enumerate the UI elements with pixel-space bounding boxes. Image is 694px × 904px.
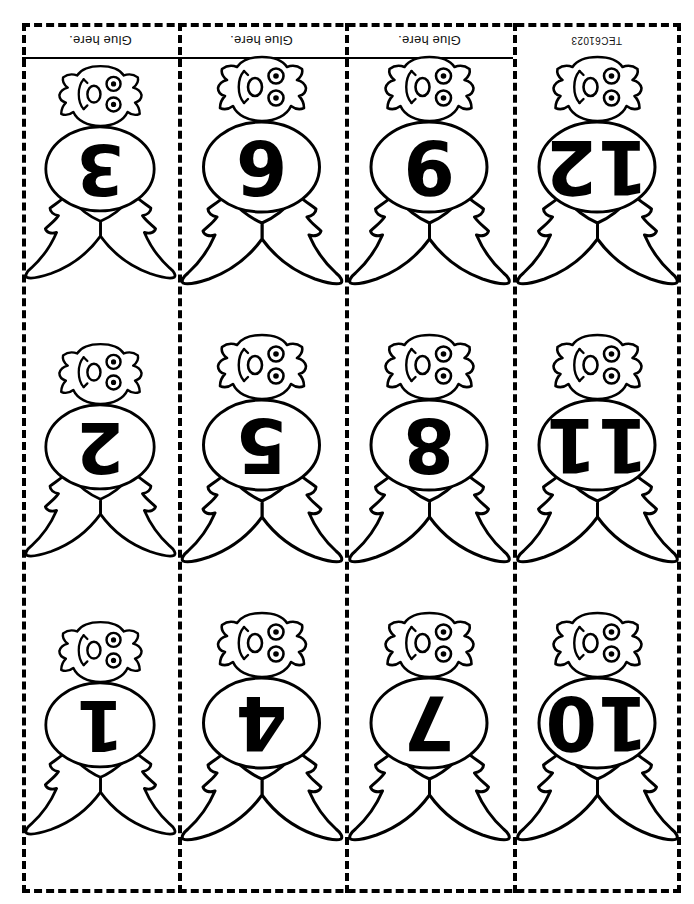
bat-number-label: 5: [236, 402, 288, 488]
glue-tab-3: Glue here.: [345, 23, 513, 57]
bat-number-label: 4: [236, 680, 288, 766]
bat-card[interactable]: 3: [22, 57, 178, 335]
bat-grid: 3 6: [22, 57, 681, 893]
bat-number-label: 8: [403, 402, 455, 488]
cut-out-area: Glue here. Glue here. Glue here. TEC6102…: [22, 23, 681, 893]
glue-tab-label: Glue here.: [398, 33, 461, 48]
bat-card[interactable]: 1: [22, 613, 178, 891]
bat-number-label: 7: [403, 680, 455, 766]
bat-card[interactable]: 2: [22, 335, 178, 613]
glue-tab-band: Glue here. Glue here. Glue here. TEC6102…: [22, 23, 681, 57]
bat-card[interactable]: 9: [345, 57, 513, 335]
bat-card[interactable]: 11: [513, 335, 681, 613]
glue-tab-1: Glue here.: [22, 23, 178, 57]
worksheet-page: Glue here. Glue here. Glue here. TEC6102…: [0, 0, 694, 904]
glue-tab-label: Glue here.: [230, 33, 293, 48]
bat-number-label: 3: [76, 129, 124, 209]
bat-number-label: 11: [546, 402, 649, 488]
bat-number-label: 9: [403, 124, 455, 210]
bat-card[interactable]: 6: [178, 57, 345, 335]
bat-card[interactable]: 7: [345, 613, 513, 891]
glue-tab-2: Glue here.: [178, 23, 345, 57]
bat-number-label: 12: [546, 124, 649, 210]
bat-number-label: 1: [76, 685, 124, 765]
publisher-code-label: TEC61023: [571, 35, 622, 46]
bat-card[interactable]: 8: [345, 335, 513, 613]
glue-tab-label: Glue here.: [69, 33, 132, 48]
bat-number-label: 6: [236, 124, 288, 210]
bat-card[interactable]: 12: [513, 57, 681, 335]
bat-card[interactable]: 10: [513, 613, 681, 891]
publisher-code: TEC61023: [513, 23, 681, 57]
bat-number-label: 10: [546, 680, 649, 766]
bat-card[interactable]: 4: [178, 613, 345, 891]
bat-number-label: 2: [76, 407, 124, 487]
bat-card[interactable]: 5: [178, 335, 345, 613]
